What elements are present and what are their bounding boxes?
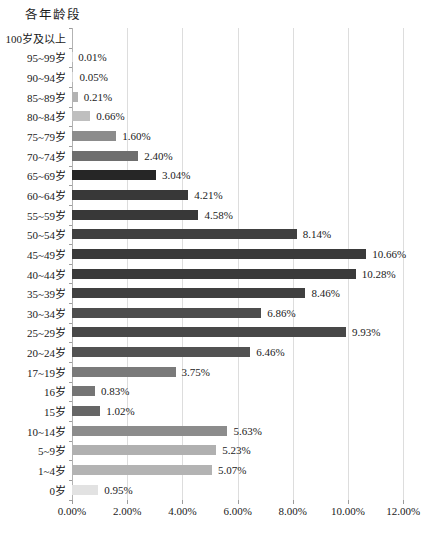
category-label: 75~79岁 [0,128,72,144]
value-label: 5.63% [233,425,261,437]
chart-row: 35~39岁8.46% [0,283,434,303]
category-label: 15岁 [0,403,72,419]
category-label: 25~29岁 [0,324,72,340]
value-label: 8.46% [311,287,339,299]
bar [72,111,90,121]
x-axis-tick-label: 2.00% [113,505,141,517]
value-label: 5.07% [218,464,246,476]
value-label: 1.02% [106,405,134,417]
bar [72,465,212,475]
category-label: 80~84岁 [0,108,72,124]
bar [72,426,227,436]
chart-row: 16岁0.83% [0,382,434,402]
category-label: 20~24岁 [0,344,72,360]
value-label: 8.14% [303,228,331,240]
bar [72,249,366,259]
bar [72,131,116,141]
x-axis-tick [182,500,183,504]
x-axis-tick [293,500,294,504]
chart-row: 95~99岁0.01% [0,48,434,68]
category-label: 55~59岁 [0,207,72,223]
x-axis-tick [238,500,239,504]
y-axis-title: 各年龄段 [25,4,81,23]
category-label: 16岁 [0,383,72,399]
category-label: 90~94岁 [0,69,72,85]
bar [72,367,176,377]
bar [72,229,297,239]
chart-row: 10~14岁5.63% [0,421,434,441]
value-label: 3.04% [162,169,190,181]
category-label: 10~14岁 [0,423,72,439]
category-label: 5~9岁 [0,442,72,458]
chart-row: 15岁1.02% [0,401,434,421]
age-distribution-bar-chart: 各年龄段 100岁及以上95~99岁0.01%90~94岁0.05%85~89岁… [0,0,434,534]
chart-row: 50~54岁8.14% [0,224,434,244]
category-label: 65~69岁 [0,167,72,183]
chart-row: 1~4岁5.07% [0,460,434,480]
value-label: 0.66% [96,110,124,122]
bar [72,72,73,82]
bar [72,308,261,318]
chart-row: 5~9岁5.23% [0,440,434,460]
bar [72,327,346,337]
category-label: 100岁及以上 [0,30,72,46]
chart-row: 45~49岁10.66% [0,244,434,264]
bar-rows: 100岁及以上95~99岁0.01%90~94岁0.05%85~89岁0.21%… [0,28,434,499]
x-axis-tick [127,500,128,504]
x-axis-tick [403,500,404,504]
category-label: 95~99岁 [0,49,72,65]
value-label: 4.21% [194,189,222,201]
x-axis-tick-label: 6.00% [223,505,251,517]
value-label: 4.58% [204,209,232,221]
x-axis-tick-label: 0.00% [58,505,86,517]
value-label: 9.93% [352,326,380,338]
chart-row: 70~74岁2.40% [0,146,434,166]
chart-row: 55~59岁4.58% [0,205,434,225]
category-label: 60~64岁 [0,187,72,203]
chart-row: 17~19岁3.75% [0,362,434,382]
bar [72,170,156,180]
chart-row: 75~79岁1.60% [0,126,434,146]
value-label: 0.21% [84,91,112,103]
chart-row: 90~94岁0.05% [0,67,434,87]
x-axis-tick-label: 8.00% [279,505,307,517]
value-label: 2.40% [144,150,172,162]
value-label: 5.23% [222,444,250,456]
bar [72,485,98,495]
chart-row: 40~44岁10.28% [0,264,434,284]
bar [72,445,216,455]
value-label: 0.05% [79,71,107,83]
bar [72,288,305,298]
value-label: 0.83% [101,385,129,397]
chart-row: 0岁0.95% [0,480,434,500]
x-axis-tick [348,500,349,504]
x-axis-tick-label: 12.00% [386,505,420,517]
category-label: 45~49岁 [0,246,72,262]
value-label: 3.75% [182,366,210,378]
chart-row: 80~84岁0.66% [0,107,434,127]
chart-row: 25~29岁9.93% [0,323,434,343]
bar [72,190,188,200]
category-label: 0岁 [0,482,72,498]
value-label: 10.28% [362,268,396,280]
x-axis-tick-label: 10.00% [331,505,365,517]
x-axis-tick-label: 4.00% [168,505,196,517]
chart-row: 60~64岁4.21% [0,185,434,205]
bar [72,269,356,279]
value-label: 0.95% [104,484,132,496]
chart-row: 65~69岁3.04% [0,165,434,185]
value-label: 6.46% [256,346,284,358]
bar [72,347,250,357]
category-label: 30~34岁 [0,305,72,321]
chart-row: 85~89岁0.21% [0,87,434,107]
category-label: 35~39岁 [0,285,72,301]
chart-row: 30~34岁6.86% [0,303,434,323]
value-label: 1.60% [122,130,150,142]
chart-row: 20~24岁6.46% [0,342,434,362]
category-label: 70~74岁 [0,148,72,164]
category-label: 85~89岁 [0,89,72,105]
bar [72,210,198,220]
value-label: 10.66% [372,248,406,260]
x-axis-tick [72,500,73,504]
category-label: 40~44岁 [0,266,72,282]
